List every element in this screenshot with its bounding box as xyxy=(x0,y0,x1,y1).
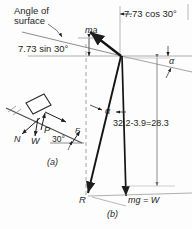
inset-motion-arrow xyxy=(45,112,66,122)
calculation-label: 32.2-3.9=28.3 xyxy=(113,119,169,128)
inset-angle-pointer xyxy=(68,141,72,150)
caption-a: (a) xyxy=(47,158,58,167)
friction-force-label: F xyxy=(75,127,80,135)
normal-force-label: N xyxy=(14,135,21,144)
angle-of-surface-line-2: surface xyxy=(14,15,45,26)
alpha-inner-label: α xyxy=(105,107,110,116)
alpha-outer-arrow-bottom xyxy=(166,68,171,78)
alpha-wedge-line xyxy=(121,56,192,72)
caption-b: (b) xyxy=(107,210,118,219)
inset-block xyxy=(26,94,51,114)
cos-component-label: 7.73 cos 30° xyxy=(124,9,177,19)
weight-label: mg = W xyxy=(128,196,159,205)
figure-canvas: Angle of surface 7.73 sin 30° 7.73 cos 3… xyxy=(0,0,192,229)
sin-component-label: 7.73 sin 30° xyxy=(18,44,68,54)
angle-of-surface-label: Angle of surface xyxy=(14,6,49,26)
ma-vector-label: ma xyxy=(85,26,98,35)
incline-angle-label: 30° xyxy=(52,135,65,144)
resultant-label: R xyxy=(79,195,86,205)
angle-of-surface-leader xyxy=(48,24,62,37)
applied-force-label: P xyxy=(44,126,50,135)
inset-weight-label: W xyxy=(31,137,40,146)
alpha-inner-arrow-left xyxy=(90,105,102,110)
R-leader-line xyxy=(92,197,126,206)
alpha-outer-label: α xyxy=(169,57,174,66)
